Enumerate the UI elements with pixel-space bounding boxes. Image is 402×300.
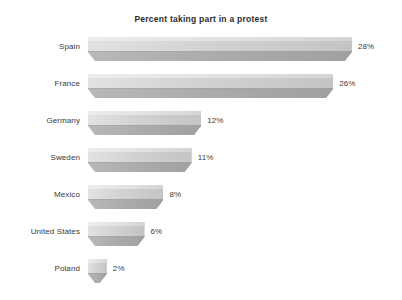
bar-front-face	[88, 89, 333, 98]
bar-value-label: 11%	[198, 153, 214, 162]
bar-body	[88, 74, 333, 98]
bar-edge-line	[88, 88, 333, 89]
plot-area: Spain28%France26%Germany12%Sweden11%Mexi…	[0, 31, 402, 293]
bar-edge-line	[88, 51, 352, 52]
bar-body	[88, 111, 201, 135]
bar	[88, 259, 107, 283]
bar-body	[88, 259, 107, 283]
category-label: United States	[0, 227, 80, 236]
bar-row: Poland2%	[0, 255, 402, 292]
category-label: Poland	[0, 264, 80, 273]
bar	[88, 111, 201, 135]
bar-value-label: 28%	[358, 42, 374, 51]
bar-edge-line	[88, 125, 201, 126]
bar-body	[88, 185, 163, 209]
bar-front-face	[88, 126, 201, 135]
bar-row: Spain28%	[0, 33, 402, 70]
bar-body	[88, 222, 145, 246]
bar-top-face	[88, 111, 201, 126]
bar-edge-line	[88, 273, 107, 274]
bar-front-face	[88, 237, 145, 246]
bar-value-label: 2%	[113, 264, 125, 273]
bar-row: Germany12%	[0, 107, 402, 144]
category-label: France	[0, 79, 80, 88]
bar-value-label: 8%	[169, 190, 181, 199]
bar-front-face	[88, 274, 107, 283]
bar-row: United States6%	[0, 218, 402, 255]
bar-body	[88, 37, 352, 61]
bar-top-face	[88, 222, 145, 237]
bar	[88, 148, 192, 172]
bar-top-face	[88, 37, 352, 52]
bar-value-label: 6%	[151, 227, 163, 236]
bar-top-face	[88, 185, 163, 200]
bar-front-face	[88, 200, 163, 209]
bar-row: France26%	[0, 70, 402, 107]
bar-top-face	[88, 259, 107, 274]
bar-edge-line	[88, 162, 192, 163]
bar-edge-line	[88, 236, 145, 237]
bar	[88, 185, 163, 209]
bar	[88, 37, 352, 61]
bar-front-face	[88, 163, 192, 172]
category-label: Spain	[0, 42, 80, 51]
bar-edge-line	[88, 199, 163, 200]
bar-body	[88, 148, 192, 172]
chart-title: Percent taking part in a protest	[0, 14, 402, 24]
category-label: Mexico	[0, 190, 80, 199]
bar-front-face	[88, 52, 352, 61]
bar-value-label: 26%	[339, 79, 355, 88]
bar-chart: Percent taking part in a protest Spain28…	[0, 0, 402, 300]
category-label: Sweden	[0, 153, 80, 162]
category-label: Germany	[0, 116, 80, 125]
bar-value-label: 12%	[207, 116, 223, 125]
bar	[88, 222, 145, 246]
bar-row: Sweden11%	[0, 144, 402, 181]
bar	[88, 74, 333, 98]
bar-row: Mexico8%	[0, 181, 402, 218]
bar-top-face	[88, 148, 192, 163]
bar-top-face	[88, 74, 333, 89]
